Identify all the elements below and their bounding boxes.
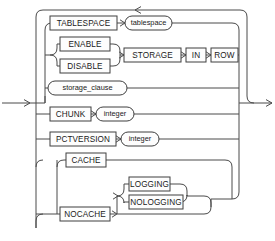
cachegroup-bottom-corner xyxy=(36,214,43,228)
node-cache[interactable]: CACHE xyxy=(66,153,106,167)
node-storage[interactable]: STORAGE xyxy=(124,48,181,62)
node-pctversion-integer[interactable]: integer xyxy=(121,132,159,146)
tablespace-keyword-label: TABLESPACE xyxy=(57,19,111,28)
node-enable[interactable]: ENABLE xyxy=(60,37,110,51)
node-nocache[interactable]: NOCACHE xyxy=(60,207,110,221)
row2-enable-out xyxy=(110,44,120,55)
node-disable[interactable]: DISABLE xyxy=(60,59,110,73)
storage-label: STORAGE xyxy=(132,51,173,60)
right-bus-lower xyxy=(232,103,239,199)
cachegroup-left-bus xyxy=(57,160,64,214)
log-split-up xyxy=(117,184,124,196)
top-loopback-right-corner xyxy=(240,10,254,103)
left-bus-upper xyxy=(36,10,43,103)
cachegroup-top-corner-stub xyxy=(36,160,43,167)
chunk-integer-label: integer xyxy=(104,109,127,118)
node-in[interactable]: IN xyxy=(186,48,206,62)
log-merge-rail xyxy=(187,196,211,207)
node-storage-clause[interactable]: storage_clause xyxy=(48,81,127,95)
row2-split-down xyxy=(50,55,57,66)
nologging-label: NOLOGGING xyxy=(130,198,181,207)
chunk-label: CHUNK xyxy=(56,110,86,119)
disable-label: DISABLE xyxy=(67,62,103,71)
in-label: IN xyxy=(192,51,200,60)
railroad-diagram: TABLESPACE tablespace ENABLE DISABLE STO… xyxy=(0,0,275,241)
enable-label: ENABLE xyxy=(69,40,102,49)
node-logging[interactable]: LOGGING xyxy=(129,177,170,191)
nocache-label: NOCACHE xyxy=(64,210,106,219)
node-pctversion[interactable]: PCTVERSION xyxy=(50,132,116,146)
pctversion-label: PCTVERSION xyxy=(56,135,110,144)
row2-disable-out xyxy=(110,55,120,66)
logging-exit xyxy=(170,184,187,196)
row2-split-up xyxy=(50,44,57,55)
log-split-down xyxy=(117,196,124,203)
row-label: ROW xyxy=(214,51,234,60)
node-tablespace-value[interactable]: tablespace xyxy=(125,16,172,30)
right-bus-upper xyxy=(232,23,239,103)
storage-clause-label: storage_clause xyxy=(62,83,112,92)
tablespace-value-label: tablespace xyxy=(131,18,167,27)
cache-label: CACHE xyxy=(71,156,101,165)
node-chunk[interactable]: CHUNK xyxy=(50,107,91,121)
node-chunk-integer[interactable]: integer xyxy=(96,107,134,121)
node-nologging[interactable]: NOLOGGING xyxy=(129,195,183,209)
logging-label: LOGGING xyxy=(130,180,169,189)
syntax-diagram-canvas: TABLESPACE tablespace ENABLE DISABLE STO… xyxy=(0,0,275,241)
node-row[interactable]: ROW xyxy=(211,48,238,62)
node-tablespace-keyword[interactable]: TABLESPACE xyxy=(50,16,117,30)
pctversion-integer-label: integer xyxy=(129,134,152,143)
